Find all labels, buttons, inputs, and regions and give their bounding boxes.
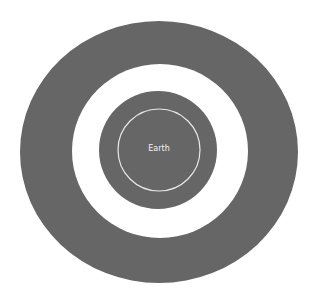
concentric-diagram: Earth bbox=[0, 0, 316, 299]
earth-label: Earth bbox=[148, 144, 169, 153]
